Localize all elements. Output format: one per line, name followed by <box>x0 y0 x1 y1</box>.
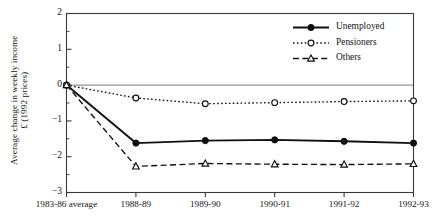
data-point <box>272 137 278 143</box>
data-point <box>202 137 208 143</box>
legend-label: Others <box>336 52 361 62</box>
data-point <box>341 99 347 105</box>
data-point <box>341 138 347 144</box>
data-point <box>202 101 208 107</box>
legend-marker <box>308 40 314 46</box>
y-tick-label: 1 <box>40 43 62 53</box>
y-tick-label: −2 <box>40 150 62 160</box>
data-point <box>411 98 417 104</box>
legend-marker <box>308 24 314 30</box>
y-tick-label: −3 <box>40 186 62 196</box>
data-point <box>133 95 139 101</box>
chart-figure: Average change in weekly income £ (1992 … <box>0 0 441 221</box>
data-point <box>272 100 278 106</box>
legend-label: Unemployed <box>336 21 384 31</box>
data-point <box>410 140 416 146</box>
data-point <box>133 140 139 146</box>
x-tick-label: 1992-93 <box>368 199 441 209</box>
y-tick-label: 2 <box>40 7 62 17</box>
legend-label: Pensioners <box>336 37 377 47</box>
y-tick-label: 0 <box>40 79 62 89</box>
line-chart-canvas <box>0 0 441 221</box>
y-tick-label: −1 <box>40 114 62 124</box>
